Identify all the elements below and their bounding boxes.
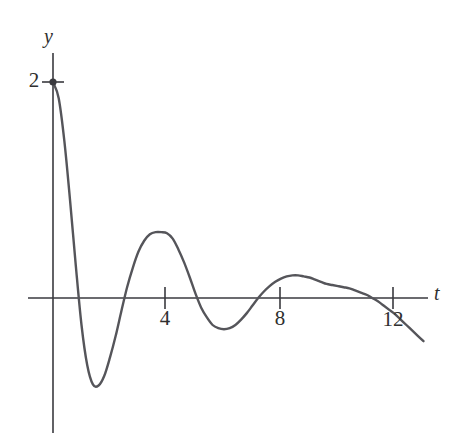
y-tick-label-2: 2 bbox=[25, 70, 43, 91]
x-tick-label-4: 4 bbox=[155, 308, 175, 329]
x-tick-label-8: 8 bbox=[270, 308, 290, 329]
damped-oscillation-figure: y t 2 4 8 12 bbox=[0, 0, 471, 448]
plot-canvas bbox=[0, 0, 471, 448]
initial-point-marker bbox=[49, 78, 56, 85]
x-axis-label: t bbox=[434, 283, 440, 303]
damped-oscillation-curve bbox=[53, 82, 424, 387]
y-axis-label: y bbox=[44, 26, 53, 46]
x-tick-label-12: 12 bbox=[377, 309, 409, 330]
